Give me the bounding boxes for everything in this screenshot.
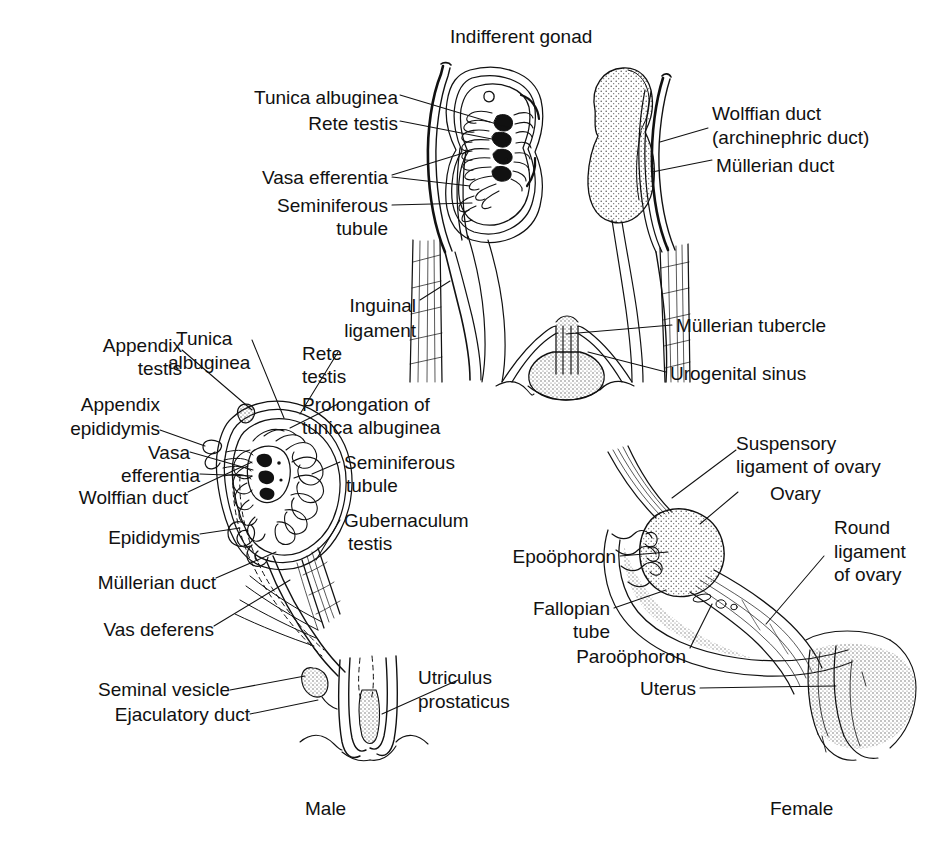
label-rete-testis-male-1: Rete: [302, 342, 342, 365]
label-uterus: Uterus: [540, 677, 696, 700]
label-rete-testis-top: Rete testis: [140, 112, 398, 135]
label-gubernaculum-testis-1: Gubernaculum: [344, 509, 469, 532]
label-utriculus-prostaticus-2: prostaticus: [418, 690, 510, 713]
label-inguinal-ligament-1: Inguinal: [230, 294, 416, 317]
label-appendix-testis-1: Appendix: [10, 334, 182, 357]
label-suspensory-ligament-2: ligament of ovary: [736, 455, 881, 478]
label-mullerian-tubercle: Müllerian tubercle: [676, 314, 826, 337]
caption-male: Male: [305, 798, 346, 820]
label-fallopian-tube-1: Fallopian: [440, 597, 610, 620]
caption-female: Female: [770, 798, 833, 820]
label-seminal-vesicle: Seminal vesicle: [0, 678, 230, 701]
label-appendix-testis-2: testis: [10, 357, 182, 380]
label-round-ligament-2: ligament: [834, 540, 906, 563]
label-vasa-efferentia-male-2: efferentia: [0, 464, 200, 487]
label-seminiferous-tubule-top-2: tubule: [130, 217, 388, 240]
label-gubernaculum-testis-2: testis: [348, 532, 392, 555]
label-paroophoron: Paroöphoron: [490, 645, 686, 668]
label-ovary: Ovary: [770, 482, 821, 505]
label-epoophoron: Epoöphoron: [440, 545, 616, 568]
label-mullerian-duct-male: Müllerian duct: [0, 571, 216, 594]
label-epididymis: Epididymis: [0, 526, 200, 549]
label-tunica-albuginea-top: Tunica albuginea: [140, 86, 398, 109]
female-panel-art: [604, 446, 916, 760]
label-urogenital-sinus: Urogenital sinus: [670, 362, 806, 385]
label-seminiferous-tubule-male-1: Seminiferous: [344, 451, 455, 474]
label-seminiferous-tubule-top-1: Seminiferous: [130, 194, 388, 217]
label-appendix-epididymis-1: Appendix: [0, 393, 160, 416]
label-suspensory-ligament-1: Suspensory: [736, 432, 836, 455]
label-vasa-efferentia-top: Vasa efferentia: [130, 166, 388, 189]
label-round-ligament-3: of ovary: [834, 563, 902, 586]
label-tunica-albuginea-male-1: Tunica: [176, 327, 232, 350]
label-wolffian-duct-male: Wolffian duct: [0, 486, 188, 509]
label-appendix-epididymis-2: epididymis: [0, 417, 160, 440]
label-tunica-albuginea-male-2: albuginea: [168, 351, 250, 374]
figure-title: Indifferent gonad: [450, 26, 650, 48]
label-vas-deferens: Vas deferens: [0, 618, 214, 641]
label-archinephric-duct: (archinephric duct): [712, 126, 869, 149]
indifferent-gonad-left-unit: [410, 63, 543, 382]
figure-root: Indifferent gonad Tunica albuginea Rete …: [0, 0, 942, 861]
label-prolongation-1: Prolongation of: [302, 393, 430, 416]
label-round-ligament-1: Round: [834, 516, 890, 539]
label-ejaculatory-duct: Ejaculatory duct: [0, 703, 250, 726]
label-prolongation-2: tunica albuginea: [302, 416, 440, 439]
label-seminiferous-tubule-male-2: tubule: [346, 474, 398, 497]
label-utriculus-prostaticus-1: Utriculus: [418, 666, 492, 689]
label-fallopian-tube-2: tube: [440, 620, 610, 643]
label-rete-testis-male-2: testis: [302, 365, 346, 388]
label-vasa-efferentia-male-1: Vasa: [0, 441, 190, 464]
label-inguinal-ligament-2: ligament: [230, 319, 416, 342]
label-wolffian-duct-top: Wolffian duct: [712, 102, 821, 125]
indifferent-gonad-right-unit: [588, 68, 690, 382]
label-mullerian-duct-top: Müllerian duct: [716, 154, 834, 177]
